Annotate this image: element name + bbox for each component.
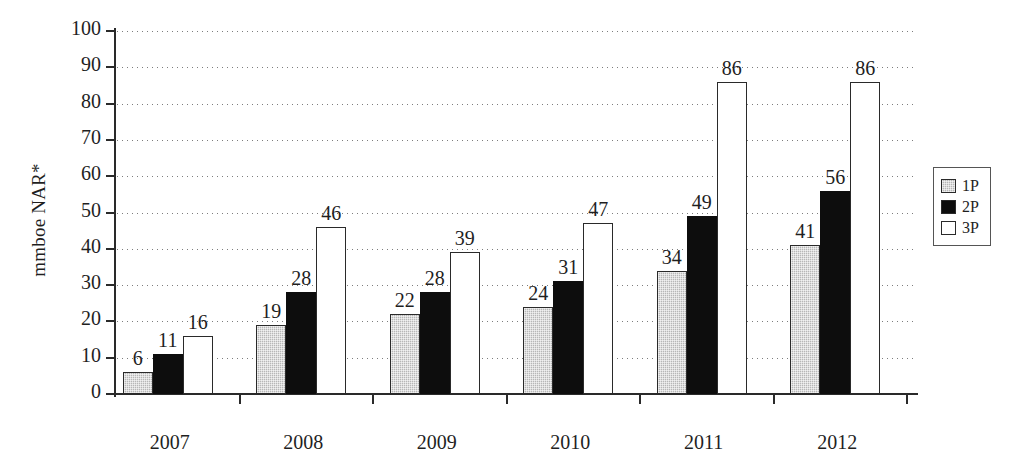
bar-2012-2P[interactable]: 56 <box>820 191 850 394</box>
x-axis-tick-label-2012: 2012 <box>777 431 897 453</box>
gridline <box>117 31 916 32</box>
y-axis-tick-mark <box>106 103 115 105</box>
bar-2010-1P[interactable]: 24 <box>523 307 553 394</box>
bar-2008-1P[interactable]: 19 <box>256 325 286 394</box>
bar-value-label: 39 <box>455 227 475 250</box>
y-axis-tick-label: 40 <box>49 235 101 258</box>
y-axis-tick-label: 60 <box>49 162 101 185</box>
y-axis-tick-mark <box>106 175 115 177</box>
bar-2010-2P[interactable]: 31 <box>553 281 583 394</box>
legend-item-1P[interactable]: 1P <box>934 175 990 196</box>
white-swatch <box>941 221 956 235</box>
x-axis-tick-label-2010: 2010 <box>510 431 630 453</box>
x-axis-tick-mark <box>639 394 641 404</box>
x-axis-tick-mark <box>773 394 775 404</box>
x-axis-tick-label-2007: 2007 <box>110 431 230 453</box>
x-axis-tick-label-2011: 2011 <box>644 431 764 453</box>
y-axis-tick-label: 50 <box>49 199 101 222</box>
y-axis-tick-label: 10 <box>49 344 101 367</box>
y-axis-tick-mark <box>106 284 115 286</box>
black-swatch <box>941 200 956 214</box>
y-axis-tick-label: 100 <box>49 17 101 40</box>
legend-item-label: 2P <box>962 199 979 215</box>
x-axis-tick-mark <box>506 394 508 404</box>
bar-value-label: 41 <box>795 220 815 243</box>
x-axis-tick-mark <box>239 394 241 404</box>
y-axis-title: mmboe NAR* <box>28 0 50 120</box>
plot-area: 0102030405060708090100611162007192846200… <box>115 31 916 394</box>
bar-value-label: 28 <box>291 267 311 290</box>
x-axis-tick-label-2008: 2008 <box>243 431 363 453</box>
bar-value-label: 86 <box>722 57 742 80</box>
gridline <box>117 104 916 105</box>
gray-stipple-swatch <box>941 179 956 193</box>
y-axis-tick-mark <box>106 320 115 322</box>
gridline <box>117 140 916 141</box>
bar-2012-3P[interactable]: 86 <box>850 82 880 394</box>
legend-item-label: 1P <box>962 178 979 194</box>
y-axis-title-label: mmboe NAR* <box>28 120 50 320</box>
bar-2011-2P[interactable]: 49 <box>687 216 717 394</box>
y-axis-tick-label: 80 <box>49 90 101 113</box>
y-axis-tick-label: 0 <box>49 380 101 403</box>
bar-value-label: 11 <box>158 329 177 352</box>
bar-value-label: 56 <box>825 166 845 189</box>
legend-item-3P[interactable]: 3P <box>934 217 990 238</box>
y-axis-tick-mark <box>106 30 115 32</box>
y-axis-tick-label: 90 <box>49 53 101 76</box>
bar-value-label: 16 <box>188 311 208 334</box>
x-axis-tick-label-2009: 2009 <box>377 431 497 453</box>
y-axis-tick-label: 70 <box>49 126 101 149</box>
bar-2009-3P[interactable]: 39 <box>450 252 480 394</box>
x-axis-tick-mark <box>372 394 374 404</box>
y-axis-tick-mark <box>106 393 115 395</box>
bar-value-label: 46 <box>321 202 341 225</box>
bar-value-label: 6 <box>133 347 143 370</box>
bar-2007-1P[interactable]: 6 <box>123 372 153 394</box>
gridline <box>117 67 916 68</box>
bar-value-label: 22 <box>395 289 415 312</box>
bar-2008-3P[interactable]: 46 <box>316 227 346 394</box>
bar-2012-1P[interactable]: 41 <box>790 245 820 394</box>
gridline <box>117 213 916 214</box>
gridline <box>117 176 916 177</box>
bar-value-label: 28 <box>425 267 445 290</box>
y-axis-tick-mark <box>106 357 115 359</box>
legend-item-label: 3P <box>962 220 979 236</box>
bar-value-label: 86 <box>855 57 875 80</box>
bar-value-label: 24 <box>528 282 548 305</box>
bar-2007-2P[interactable]: 11 <box>153 354 183 394</box>
bar-2008-2P[interactable]: 28 <box>286 292 316 394</box>
bar-2010-3P[interactable]: 47 <box>583 223 613 394</box>
bar-2009-1P[interactable]: 22 <box>390 314 420 394</box>
y-axis-tick-mark <box>106 212 115 214</box>
y-axis-tick-mark <box>106 248 115 250</box>
bar-value-label: 34 <box>662 246 682 269</box>
bar-value-label: 49 <box>692 191 712 214</box>
chart-legend: 1P2P3P <box>933 167 991 246</box>
bar-2009-2P[interactable]: 28 <box>420 292 450 394</box>
bar-2011-3P[interactable]: 86 <box>717 82 747 394</box>
bar-value-label: 47 <box>588 198 608 221</box>
y-axis-tick-label: 20 <box>49 307 101 330</box>
y-axis-tick-mark <box>106 139 115 141</box>
legend-item-2P[interactable]: 2P <box>934 196 990 217</box>
x-axis-tick-mark <box>906 394 908 404</box>
bar-2007-3P[interactable]: 16 <box>183 336 213 394</box>
bar-2011-1P[interactable]: 34 <box>657 271 687 394</box>
y-axis-tick-label: 30 <box>49 271 101 294</box>
y-axis-tick-mark <box>106 66 115 68</box>
bar-value-label: 19 <box>261 300 281 323</box>
bar-value-label: 31 <box>558 256 578 279</box>
